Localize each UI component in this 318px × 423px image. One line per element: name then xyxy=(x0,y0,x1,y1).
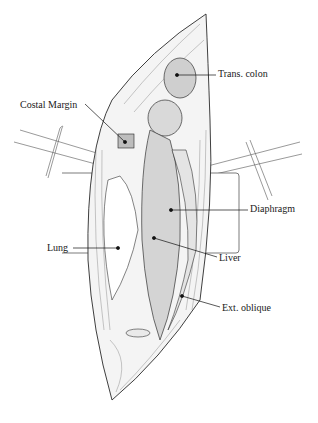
label-liver: Liver xyxy=(219,253,241,263)
anatomical-figure: Trans. colon Costal Margin Diaphragm Lun… xyxy=(0,0,318,423)
label-lung: Lung xyxy=(47,243,68,253)
vessel-bottom xyxy=(126,329,150,337)
label-trans-colon: Trans. colon xyxy=(218,69,268,79)
label-costal-margin: Costal Margin xyxy=(20,100,77,110)
label-ext-oblique: Ext. oblique xyxy=(222,303,271,313)
label-diaphragm: Diaphragm xyxy=(250,204,295,214)
